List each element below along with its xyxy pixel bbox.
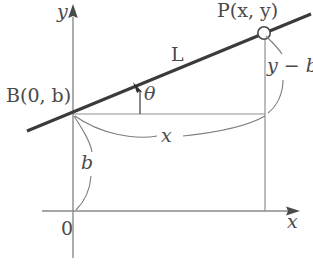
brace-x-right (183, 116, 265, 136)
origin-label: 0 (61, 219, 73, 238)
intercept-segment-label: b (81, 153, 93, 172)
point-b-label: B(0, b) (6, 86, 71, 105)
brace-b-lower (76, 176, 91, 210)
geometry-diagram: y x 0 P(x, y) B(0, b) L θ x b y − b (0, 0, 313, 270)
point-p-label: P(x, y) (217, 1, 278, 20)
line-name-label: L (171, 45, 184, 64)
brace-ymb-upper (266, 36, 282, 54)
angle-theta-label: θ (144, 84, 155, 103)
run-segment-label: x (161, 126, 172, 145)
diagram-canvas (0, 0, 313, 270)
brace-ymb-lower (268, 80, 283, 113)
rise-segment-label: y − b (267, 56, 313, 75)
y-axis-arrowhead (68, 4, 78, 18)
point-p-marker (258, 27, 270, 39)
brace-x-left (75, 116, 157, 137)
x-axis-label: x (287, 212, 298, 231)
y-axis-label: y (57, 2, 68, 21)
helper-lines-group (73, 33, 265, 211)
